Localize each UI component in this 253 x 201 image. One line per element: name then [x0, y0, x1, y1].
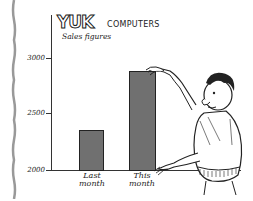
y-tick-2500 [46, 113, 52, 114]
chart-title-suffix: COMPUTERS [107, 20, 160, 29]
bar-last-month [79, 130, 104, 171]
y-tick-label: 2500 [18, 109, 45, 117]
chart-subtitle: Sales figures [62, 32, 111, 41]
y-tick-label: 2000 [18, 166, 45, 174]
chart-title-brand: YUK [57, 13, 93, 31]
cartoon-man-illustration [140, 55, 250, 195]
y-tick-label: 3000 [18, 54, 45, 62]
y-tick-3000 [46, 58, 52, 59]
wavy-border-decoration [10, 0, 18, 199]
y-tick-2000 [46, 170, 52, 171]
y-axis [51, 15, 52, 171]
x-category-label-last-month: Last month [72, 172, 112, 188]
